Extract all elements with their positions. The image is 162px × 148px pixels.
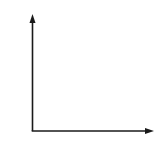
background (0, 0, 162, 148)
axes-diagram (0, 0, 162, 148)
